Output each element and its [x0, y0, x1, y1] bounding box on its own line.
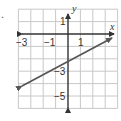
tick-label-y-neg5: −5 [54, 91, 66, 102]
coordinate-plane: y x −3 −1 1 1 −3 −5 [0, 0, 121, 121]
tick-label-y-neg3: −3 [54, 66, 66, 77]
tick-label-x-neg3: −3 [16, 37, 28, 48]
tick-label-y-1: 1 [60, 16, 66, 27]
x-axis-label: x [109, 21, 115, 32]
y-axis-label: y [71, 3, 77, 14]
tick-label-x-1: 1 [78, 37, 84, 48]
tick-label-x-neg1: −1 [44, 37, 56, 48]
plotted-line [22, 38, 112, 86]
